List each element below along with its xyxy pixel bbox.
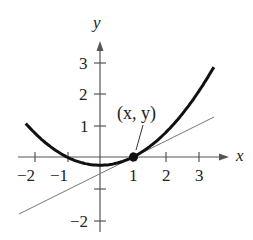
y-tick-label: −2 bbox=[70, 213, 88, 230]
y-tick-label: 1 bbox=[80, 118, 89, 135]
tangent-line bbox=[19, 117, 214, 214]
tangent-point bbox=[129, 153, 138, 162]
y-axis-arrow-icon bbox=[97, 41, 104, 51]
x-tick-label: 3 bbox=[195, 167, 204, 184]
x-tick-label: −1 bbox=[50, 167, 68, 184]
x-tick-label: −2 bbox=[17, 167, 35, 184]
function-tangent-diagram: y x (x, y) −2 −1 1 2 3 3 2 1 −2 bbox=[0, 0, 253, 240]
point-label: (x, y) bbox=[117, 104, 156, 122]
x-axis-arrow-icon bbox=[219, 154, 229, 161]
y-tick-label: 2 bbox=[79, 86, 88, 103]
x-axis-label: x bbox=[236, 147, 244, 164]
x-tick-label: 1 bbox=[129, 167, 138, 184]
annotation-leader bbox=[136, 125, 143, 150]
y-axis-label: y bbox=[93, 14, 101, 31]
x-tick-label: 2 bbox=[162, 167, 171, 184]
y-tick-label: 3 bbox=[79, 55, 88, 72]
